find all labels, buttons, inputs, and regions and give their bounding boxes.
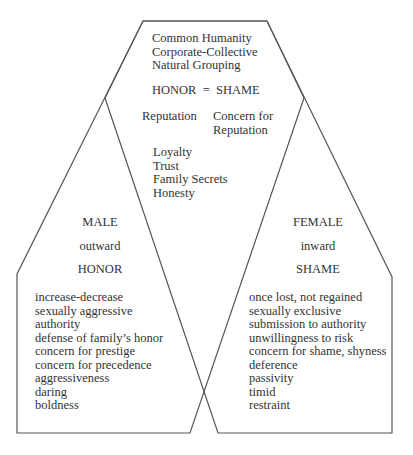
shared-value: Loyalty — [153, 146, 228, 160]
honor-equals-shame: HONOR = SHAME — [152, 84, 260, 98]
male-trait: aggressiveness — [35, 372, 163, 386]
male-trait: concern for precedence — [35, 359, 163, 373]
concern-line: Reputation — [213, 124, 273, 138]
female-traits-list: once lost, not regained sexually exclusi… — [249, 291, 386, 413]
male-trait: boldness — [35, 399, 163, 413]
male-title: MALE — [82, 216, 117, 230]
female-trait: unwillingness to risk — [249, 332, 386, 346]
male-traits-list: increase-decrease sexually aggressive au… — [35, 291, 163, 413]
female-trait: once lost, not regained — [249, 291, 386, 305]
female-trait: submission to authority — [249, 318, 386, 332]
concern-line: Concern for — [213, 110, 273, 124]
female-direction: inward — [301, 240, 336, 254]
male-trait: sexually aggressive — [35, 305, 163, 319]
common-attribute: Natural Grouping — [152, 59, 258, 73]
female-trait: timid — [249, 386, 386, 400]
concern-for-reputation: Concern for Reputation — [213, 110, 273, 137]
common-attribute: Common Humanity — [152, 32, 258, 46]
male-trait: daring — [35, 386, 163, 400]
reputation-label: Reputation — [142, 110, 197, 124]
common-attribute: Corporate-Collective — [152, 46, 258, 60]
female-concept: SHAME — [296, 263, 340, 277]
male-direction: outward — [80, 240, 121, 254]
male-concept: HONOR — [78, 263, 122, 277]
female-trait: deference — [249, 359, 386, 373]
male-trait: authority — [35, 318, 163, 332]
male-trait: concern for prestige — [35, 345, 163, 359]
female-title: FEMALE — [293, 216, 343, 230]
shared-value: Trust — [153, 160, 228, 174]
male-trait: increase-decrease — [35, 291, 163, 305]
shared-values-list: Loyalty Trust Family Secrets Honesty — [153, 146, 228, 200]
male-trait: defense of family’s honor — [35, 332, 163, 346]
female-trait: passivity — [249, 372, 386, 386]
female-trait: restraint — [249, 399, 386, 413]
shared-value: Family Secrets — [153, 173, 228, 187]
common-attributes-list: Common Humanity Corporate-Collective Nat… — [152, 32, 258, 73]
female-trait: sexually exclusive — [249, 305, 386, 319]
female-trait: concern for shame, shyness — [249, 345, 386, 359]
shared-value: Honesty — [153, 187, 228, 201]
